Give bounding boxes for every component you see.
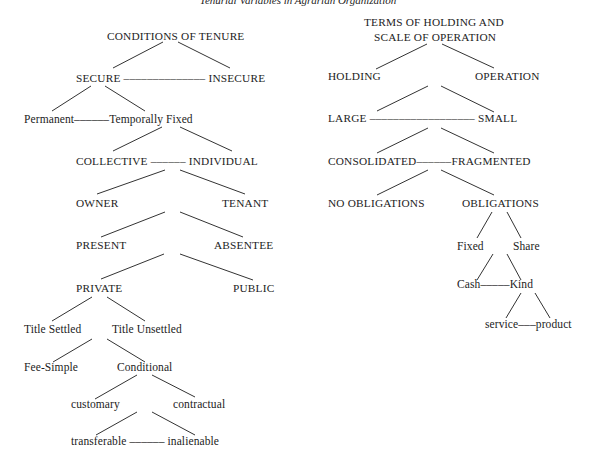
connector-line	[180, 127, 232, 151]
connector-line	[507, 254, 521, 280]
right-tree-edges	[376, 44, 550, 318]
connector-line	[376, 44, 427, 69]
node-terms-of-holding-and: TERMS OF HOLDING AND	[364, 16, 504, 29]
node-obligations: OBLIGATIONS	[462, 197, 539, 210]
connector-line	[53, 339, 92, 362]
connector-line	[535, 293, 550, 318]
connector-line	[113, 127, 162, 151]
node-conditional: Conditional	[117, 361, 172, 374]
connector-line	[507, 212, 521, 238]
node-tenant: TENANT	[222, 197, 268, 210]
connector-line	[107, 297, 145, 321]
connector-line	[52, 297, 92, 321]
node-absentee: ABSENTEE	[214, 239, 273, 252]
connector-line	[178, 42, 230, 68]
node-collective-individual: COLLECTIVE –––––– INDIVIDUAL	[76, 155, 258, 168]
tenure-variables-diagram: Tenurial Variables in Agrarian Organizat…	[0, 0, 596, 466]
node-conditions-of-tenure: CONDITIONS OF TENURE	[107, 30, 244, 43]
connector-line	[95, 375, 137, 399]
connector-line	[377, 170, 428, 195]
node-operation: OPERATION	[475, 70, 540, 83]
node-title-settled: Title Settled	[24, 323, 81, 336]
connector-line	[113, 42, 163, 68]
node-secure-insecure: SECURE –––––––––––––– INSECURE	[76, 72, 265, 85]
connector-line	[180, 254, 253, 280]
connector-line	[441, 128, 494, 153]
connector-line	[477, 254, 493, 280]
connector-line	[96, 412, 137, 435]
node-consolidated-fragmented: CONSOLIDATED––––––FRAGMENTED	[328, 155, 531, 168]
node-service-product: service–––product	[485, 318, 572, 331]
connector-line	[180, 170, 245, 194]
connector-line	[377, 128, 428, 153]
node-no-obligations: NO OBLIGATIONS	[328, 197, 425, 210]
connector-line	[477, 212, 492, 238]
connector-line	[441, 170, 494, 195]
node-scale-of-operation: SCALE OF OPERATION	[374, 31, 496, 44]
node-present: PRESENT	[76, 239, 126, 252]
node-holding: HOLDING	[328, 70, 381, 83]
node-share: Share	[513, 240, 540, 253]
connector-line	[442, 44, 494, 68]
node-fixed: Fixed	[457, 240, 484, 253]
connector-line	[180, 212, 243, 237]
node-private: PRIVATE	[76, 282, 122, 295]
node-customary: customary	[71, 398, 120, 411]
connector-line	[152, 375, 195, 397]
connector-line	[441, 86, 494, 112]
node-contractual: contractual	[173, 398, 225, 411]
node-permanent-temporally-fixed: Permanent––––––Temporally Fixed	[24, 113, 193, 126]
node-large-small: LARGE –––––––––––––––––– SMALL	[328, 112, 517, 125]
connector-line	[101, 212, 165, 237]
connector-line	[97, 170, 165, 194]
node-title-unsettled: Title Unsettled	[112, 323, 182, 336]
connector-line	[152, 412, 195, 435]
node-owner: OWNER	[76, 197, 118, 210]
node-cash-kind: Cash–––––Kind	[457, 278, 533, 291]
connector-line	[101, 254, 164, 279]
connector-line	[52, 86, 91, 111]
connector-line	[506, 293, 521, 318]
node-fee-simple: Fee-Simple	[24, 361, 78, 374]
connector-line	[105, 86, 145, 111]
connector-line	[107, 339, 145, 362]
connector-line	[377, 86, 428, 111]
node-public: PUBLIC	[233, 282, 274, 295]
node-transferable-inalienable: transferable –––––– inalienable	[71, 435, 219, 448]
